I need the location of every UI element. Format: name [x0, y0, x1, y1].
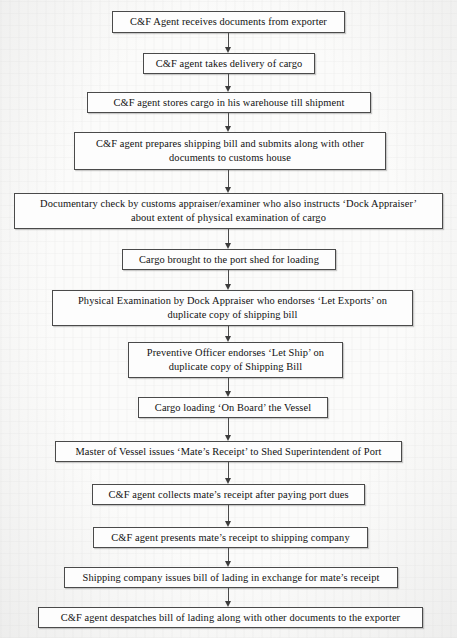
flowchart-node-label: Master of Vessel issues ‘Mate’s Receipt’… — [61, 445, 396, 459]
flowchart-arrowhead-5 — [225, 243, 231, 249]
flowchart-node-3: C&F agent stores cargo in his warehouse … — [87, 92, 371, 113]
flowchart-node-11: C&F agent collects mate’s receipt after … — [92, 484, 365, 505]
flowchart-node-10: Master of Vessel issues ‘Mate’s Receipt’… — [55, 441, 402, 462]
flowchart-arrowhead-11 — [225, 521, 231, 527]
flowchart-node-2: C&F agent takes delivery of cargo — [143, 53, 315, 74]
flowchart-node-label: Cargo brought to the port shed for loadi… — [128, 253, 330, 267]
flowchart-node-1: C&F Agent receives documents from export… — [112, 11, 345, 33]
flowchart-node-7: Physical Examination by Dock Appraiser w… — [52, 290, 413, 326]
flowchart-node-label: Shipping company issues bill of lading i… — [70, 571, 392, 585]
flowchart-node-12: C&F agent presents mate’s receipt to shi… — [93, 527, 368, 548]
flowchart-node-label: Preventive Officer endorses ‘Let Ship’ o… — [134, 346, 337, 374]
flowchart-arrowhead-1 — [225, 47, 231, 53]
flowchart-node-13: Shipping company issues bill of lading i… — [64, 567, 398, 588]
flowchart-node-label: C&F agent prepares shipping bill and sub… — [80, 137, 380, 165]
flowchart-arrowhead-12 — [225, 561, 231, 567]
flowchart-arrowhead-13 — [225, 601, 231, 607]
flowchart-arrowhead-4 — [225, 187, 231, 193]
flowchart-node-label: C&F agent presents mate’s receipt to shi… — [99, 531, 362, 545]
flowchart-node-label: C&F agent despatches bill of lading alon… — [44, 611, 417, 625]
flowchart-node-9: Cargo loading ‘On Board’ the Vessel — [138, 397, 328, 418]
flowchart-node-8: Preventive Officer endorses ‘Let Ship’ o… — [128, 342, 343, 378]
flowchart-node-label: Physical Examination by Dock Appraiser w… — [58, 294, 407, 322]
flowchart-arrowhead-10 — [225, 478, 231, 484]
flowchart-node-label: Cargo loading ‘On Board’ the Vessel — [144, 401, 322, 415]
flowchart-arrowhead-8 — [225, 391, 231, 397]
flowchart-arrowhead-6 — [225, 284, 231, 290]
flowchart-node-label: C&F agent collects mate’s receipt after … — [98, 488, 359, 502]
flowchart-node-label: C&F agent stores cargo in his warehouse … — [93, 96, 365, 110]
flowchart-arrowhead-3 — [225, 126, 231, 132]
flowchart-arrowhead-2 — [225, 86, 231, 92]
flowchart-diagram: C&F Agent receives documents from export… — [0, 0, 457, 638]
flowchart-node-5: Documentary check by customs appraiser/e… — [14, 193, 443, 229]
flowchart-node-6: Cargo brought to the port shed for loadi… — [122, 249, 336, 270]
flowchart-node-label: C&F agent takes delivery of cargo — [149, 57, 309, 71]
flowchart-node-label: Documentary check by customs appraiser/e… — [20, 197, 437, 225]
flowchart-arrowhead-9 — [225, 435, 231, 441]
flowchart-node-4: C&F agent prepares shipping bill and sub… — [74, 132, 386, 170]
flowchart-node-label: C&F Agent receives documents from export… — [118, 15, 339, 29]
flowchart-node-14: C&F agent despatches bill of lading alon… — [38, 607, 423, 628]
flowchart-arrowhead-7 — [225, 336, 231, 342]
